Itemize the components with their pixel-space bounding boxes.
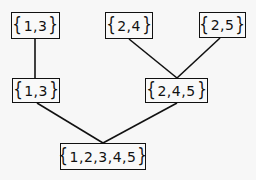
edge-mid245-root [103,103,177,143]
node-top-2-5: { 2,5 } [199,12,246,38]
open-brace: { [146,80,156,99]
open-brace: { [12,15,22,34]
open-brace: { [13,80,23,99]
edge-top24-mid245 [129,39,177,78]
edge-mid13-root [37,103,103,143]
close-brace: } [49,15,59,34]
node-mid-2-4-5: { 2,4,5 } [145,78,208,103]
node-mid-1-3: { 1,3 } [12,78,60,103]
edge-top25-mid245 [177,38,220,78]
close-brace: } [142,15,152,34]
open-brace: { [199,15,209,34]
node-label: 1,2,3,4,5 [70,149,137,165]
close-brace: } [49,80,59,99]
node-root-1-2-3-4-5: { 1,2,3,4,5 } [60,143,146,170]
node-top-1-3: { 1,3 } [11,12,60,39]
node-label: 2,5 [211,17,235,33]
close-brace: } [197,80,207,99]
node-label: 1,3 [24,83,48,99]
node-top-2-4: { 2,4 } [105,12,153,39]
open-brace: { [106,15,116,34]
open-brace: { [58,146,68,165]
node-label: 2,4,5 [157,83,195,99]
node-label: 2,4 [117,18,141,34]
close-brace: } [236,15,246,34]
node-label: 1,3 [24,18,48,34]
close-brace: } [138,146,148,165]
